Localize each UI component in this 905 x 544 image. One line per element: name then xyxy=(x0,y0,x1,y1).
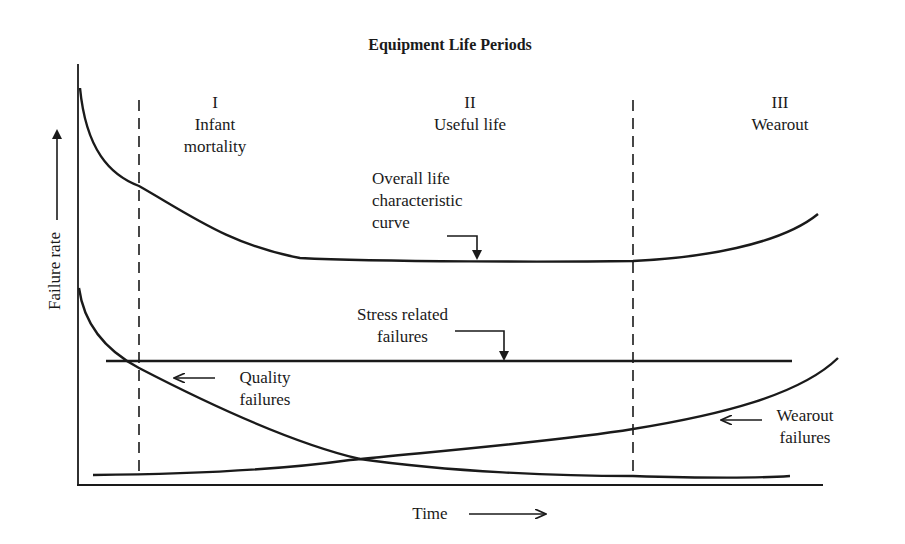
wearout-label-1: Wearout xyxy=(765,405,845,427)
diagram-title: Equipment Life Periods xyxy=(330,34,570,56)
x-axis-label: Time xyxy=(395,503,465,525)
stress-failures-label: Stress related failures xyxy=(340,304,465,348)
period-3-numeral: III xyxy=(720,92,840,114)
period-label-1: I Infant mortality xyxy=(160,92,270,158)
period-label-3: III Wearout xyxy=(720,92,840,136)
period-1-name-2: mortality xyxy=(160,136,270,158)
period-label-2: II Useful life xyxy=(400,92,540,136)
overall-curve-pointer-icon xyxy=(447,236,477,258)
wearout-failures-curve xyxy=(93,358,838,475)
overall-curve-label-2: characteristic xyxy=(372,190,463,212)
quality-label-2: failures xyxy=(225,389,305,411)
period-2-numeral: II xyxy=(400,92,540,114)
period-3-name-1: Wearout xyxy=(720,114,840,136)
overall-curve-label-3: curve xyxy=(372,212,463,234)
overall-curve-label: Overall life characteristic curve xyxy=(372,168,463,234)
stress-label-2: failures xyxy=(340,326,465,348)
period-1-numeral: I xyxy=(160,92,270,114)
diagram-canvas xyxy=(0,0,905,544)
quality-label-1: Quality xyxy=(225,367,305,389)
wearout-label-2: failures xyxy=(765,427,845,449)
stress-label-1: Stress related xyxy=(340,304,465,326)
quality-failures-label: Quality failures xyxy=(225,367,305,411)
period-2-name-1: Useful life xyxy=(400,114,540,136)
wearout-failures-label: Wearout failures xyxy=(765,405,845,449)
period-1-name-1: Infant xyxy=(160,114,270,136)
y-axis-label: Failure rate xyxy=(44,216,66,326)
overall-curve-label-1: Overall life xyxy=(372,168,463,190)
